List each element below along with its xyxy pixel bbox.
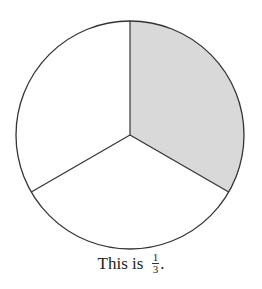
shaded-sector xyxy=(130,21,244,192)
caption-suffix: . xyxy=(160,254,164,273)
fraction-denominator: 3 xyxy=(152,264,160,275)
fraction-circle xyxy=(0,0,262,250)
fraction: 1 3 xyxy=(152,252,160,275)
caption: This is 1 3 . xyxy=(0,254,262,277)
caption-prefix: This is xyxy=(98,254,144,273)
divider-left xyxy=(31,135,130,192)
